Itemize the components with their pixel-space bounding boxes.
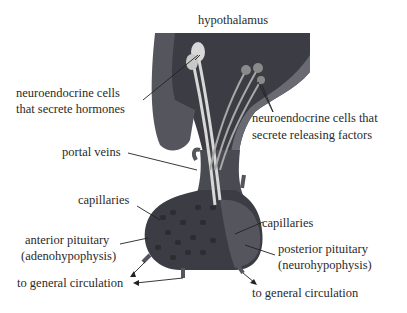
label-posterior-pituitary-2: (neurohypophysis) <box>278 258 372 272</box>
label-neuroendocrine-releasing-1: neuroendocrine cells that <box>252 111 378 125</box>
label-circulation-left: to general circulation <box>17 276 124 290</box>
label-posterior-pituitary-1: posterior pituitary <box>278 242 369 256</box>
label-circulation-right: to general circulation <box>252 286 359 300</box>
label-anterior-pituitary-1: anterior pituitary <box>25 233 110 247</box>
label-capillaries-left: capillaries <box>78 193 129 207</box>
label-capillaries-right: capillaries <box>262 216 313 230</box>
label-neuroendocrine-hormones-1: neuroendocrine cells <box>16 86 120 100</box>
label-hypothalamus: hypothalamus <box>198 13 268 27</box>
label-portal-veins: portal veins <box>62 145 121 159</box>
label-neuroendocrine-hormones-2: that secrete hormones <box>16 102 125 116</box>
pituitary-diagram: hypothalamus neuroendocrine cells that s… <box>0 0 407 313</box>
label-neuroendocrine-releasing-2: secrete releasing factors <box>252 128 372 142</box>
arrowheads <box>130 271 257 286</box>
label-anterior-pituitary-2: (adenohypophysis) <box>21 249 116 263</box>
portal-vein <box>194 150 200 160</box>
